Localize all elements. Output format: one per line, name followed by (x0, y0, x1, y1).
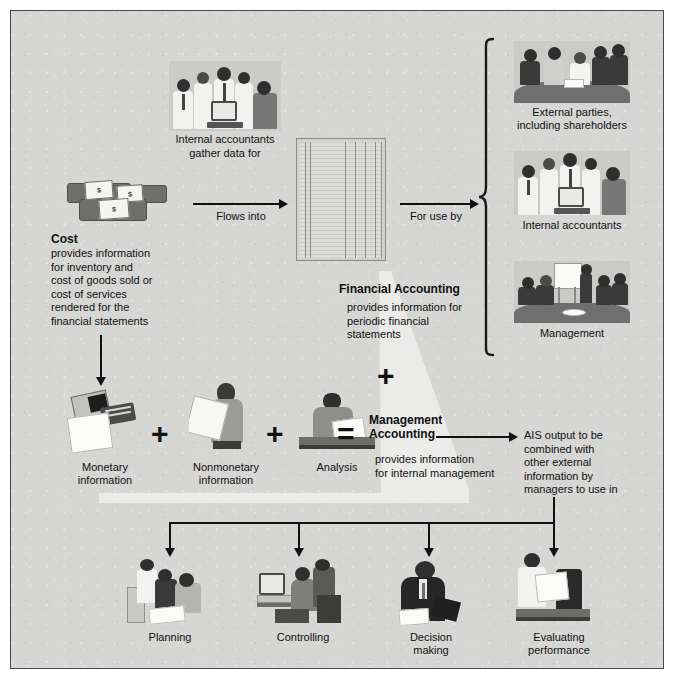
decision-making-caption: Decision making (386, 631, 476, 657)
outcome-drop-line-1 (169, 522, 171, 550)
outcomes-bus-line (169, 522, 555, 524)
equals-operator: = (337, 419, 355, 449)
monetary-information-caption: Monetary information (55, 461, 155, 487)
analysis-caption: Analysis (299, 461, 375, 474)
cost-arrow-head (96, 377, 106, 386)
internal-accountants-top-image (169, 61, 281, 131)
diagram-frame: Internal accountants gather data for $ $… (10, 10, 664, 669)
financial-plus-operator: + (377, 361, 395, 391)
evaluating-performance-caption: Evaluating performance (509, 631, 609, 657)
nonmonetary-information-image (189, 383, 261, 457)
cost-arrow-line (100, 335, 102, 379)
for-use-by-arrow-line (400, 203, 472, 205)
cost-body: provides information for inventory and c… (51, 247, 221, 328)
ais-output-stem-line (553, 497, 555, 524)
outcome-drop-line-4 (553, 522, 555, 550)
controlling-caption: Controlling (255, 631, 351, 644)
outcome-drop-line-2 (298, 522, 300, 550)
controlling-image (257, 559, 349, 625)
external-parties-caption: External parties, including shareholders (504, 106, 640, 132)
outcome-arrow-head-2 (294, 548, 304, 557)
internal-accountants-caption: Internal accountants (504, 219, 640, 232)
cash-stack-icon: $ $ $ (59, 179, 171, 227)
management-accounting-arrow-head (509, 432, 518, 442)
decision-making-image (393, 561, 467, 625)
planning-image (127, 559, 213, 625)
financial-accounting-body: provides information for periodic financ… (347, 301, 537, 342)
internal-accountants-gather-caption: Internal accountants gather data for (159, 133, 291, 160)
external-parties-image (514, 41, 630, 103)
nonmonetary-information-caption: Nonmonetary information (176, 461, 276, 487)
ais-output-text: AIS output to be combined with other ext… (524, 429, 654, 497)
input-plus-operator-1: + (151, 419, 169, 449)
management-accounting-body: provides information for internal manage… (375, 453, 535, 480)
flows-into-label: Flows into (196, 210, 286, 224)
financial-accounting-heading: Financial Accounting (339, 283, 529, 297)
input-plus-operator-2: + (266, 419, 284, 449)
for-use-by-label: For use by (396, 210, 476, 224)
cost-heading: Cost (51, 233, 211, 247)
flows-into-arrow-head (279, 199, 288, 209)
planning-caption: Planning (123, 631, 217, 644)
monetary-information-image (67, 389, 143, 455)
flows-into-arrow-line (193, 203, 281, 205)
outcome-drop-line-3 (428, 522, 430, 550)
internal-accountants-image (514, 151, 630, 215)
management-accounting-arrow-line (436, 436, 511, 438)
evaluating-performance-image (516, 553, 600, 625)
outcome-arrow-head-1 (165, 548, 175, 557)
outcome-arrow-head-3 (424, 548, 434, 557)
ledger-spreadsheet-icon (296, 138, 386, 261)
